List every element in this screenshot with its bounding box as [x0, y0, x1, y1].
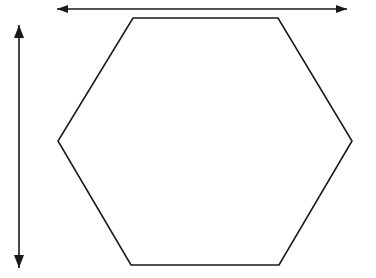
- diagram-canvas: [0, 0, 376, 278]
- diagram-svg: [0, 0, 376, 278]
- height-arrow-bottom-head-icon: [14, 255, 24, 268]
- height-dimension-arrow: [14, 25, 24, 268]
- width-dimension-arrow: [57, 5, 347, 13]
- hexagon-shape: [58, 18, 352, 265]
- height-arrow-top-head-icon: [14, 25, 24, 38]
- width-arrow-right-head-icon: [336, 5, 347, 13]
- width-arrow-left-head-icon: [57, 5, 68, 13]
